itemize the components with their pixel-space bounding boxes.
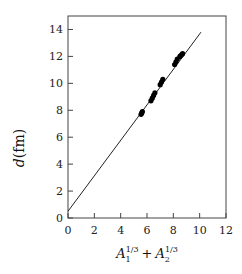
data-point <box>152 90 157 95</box>
plot-frame <box>68 16 226 218</box>
data-point <box>180 51 185 56</box>
y-tick-label: 6 <box>56 131 63 144</box>
data-point <box>160 77 165 82</box>
x-tick-label: 10 <box>193 224 207 237</box>
x-tick-label: 8 <box>170 224 177 237</box>
x-axis-label: A11/3+A21/3 <box>115 245 178 264</box>
y-tick-label: 10 <box>49 77 63 90</box>
y-tick-label: 2 <box>56 185 63 198</box>
y-tick-label: 8 <box>56 104 63 117</box>
data-series <box>68 32 201 211</box>
plot-border <box>68 16 226 218</box>
x-tick-label: 4 <box>117 224 124 237</box>
x-tick-label: 2 <box>91 224 98 237</box>
y-tick-label: 4 <box>56 158 63 171</box>
x-tick-label: 0 <box>65 224 72 237</box>
chart: 02468101202468101214 d(fm) A11/3+A21/3 <box>0 0 242 274</box>
y-tick-label: 14 <box>49 23 63 36</box>
x-tick-label: 12 <box>219 224 233 237</box>
data-point <box>140 109 145 114</box>
x-tick-label: 6 <box>144 224 151 237</box>
y-tick-label: 0 <box>56 212 63 225</box>
y-axis-label: d(fm) <box>11 129 27 167</box>
fit-line <box>68 32 201 211</box>
axis-ticks: 02468101202468101214 <box>49 23 233 237</box>
y-tick-label: 12 <box>49 50 63 63</box>
